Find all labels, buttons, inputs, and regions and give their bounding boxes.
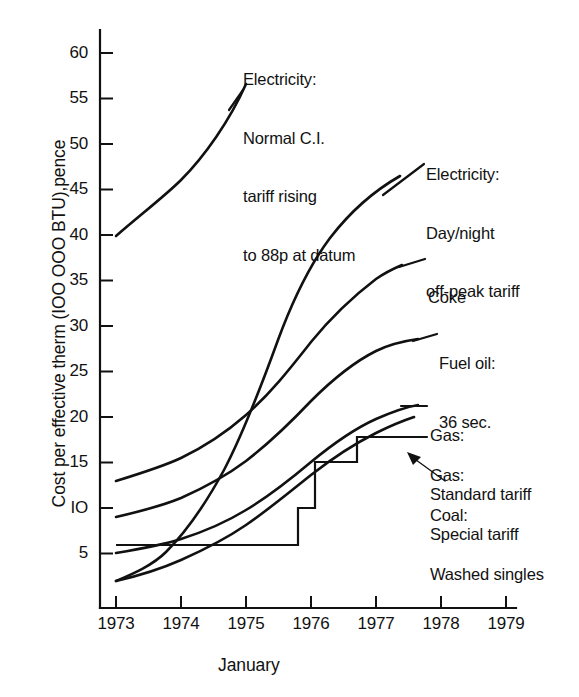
annotation-electricity-offpeak-line2: Day/night (426, 224, 519, 244)
annotation-fuel-oil-line1: Fuel oil: (439, 354, 495, 374)
x-tick-label-1974: 1974 (153, 614, 209, 634)
y-tick-label-60: 60 (44, 43, 88, 63)
x-tick-label-1977: 1977 (348, 614, 404, 634)
series-gas-standard (116, 405, 418, 553)
x-tick-label-1976: 1976 (283, 614, 339, 634)
leader-coal-arrowhead (407, 452, 421, 465)
annotation-coal: Coal: Washed singles (430, 467, 544, 623)
annotation-coal-line1: Coal: (430, 506, 544, 526)
x-tick-label-1973: 1973 (88, 614, 144, 634)
chart-figure: 60 55 50 45 40 35 30 25 20 15 IO 5 1973 … (0, 0, 579, 697)
x-tick-label-1975: 1975 (218, 614, 274, 634)
annotation-electricity-normal-line2: Normal C.I. (243, 129, 355, 149)
annotation-coal-line2: Washed singles (430, 565, 544, 585)
y-tick-label-55: 55 (44, 88, 88, 108)
leader-electricity-offpeak (383, 164, 424, 195)
annotation-electricity-normal-line3: tariff rising (243, 187, 355, 207)
series-fuel-oil (116, 339, 418, 517)
annotation-coke-line1: Coke (428, 288, 466, 308)
y-axis-title: Cost per effective therm (IOO OOO BTU),p… (49, 114, 70, 534)
annotation-electricity-normal-line4: to 88p at datum (243, 246, 355, 266)
series-gas-special (116, 437, 415, 545)
y-tick-label-5: 5 (44, 543, 88, 563)
leader-coke (399, 259, 425, 267)
y-axis-ticks (100, 53, 113, 554)
annotation-electricity-offpeak-line1: Electricity: (426, 165, 519, 185)
series-electricity-normal (116, 84, 246, 236)
annotation-electricity-normal-line1: Electricity: (243, 70, 355, 90)
x-axis-title: January (218, 655, 280, 676)
annotation-electricity-normal: Electricity: Normal C.I. tariff rising t… (243, 31, 355, 304)
